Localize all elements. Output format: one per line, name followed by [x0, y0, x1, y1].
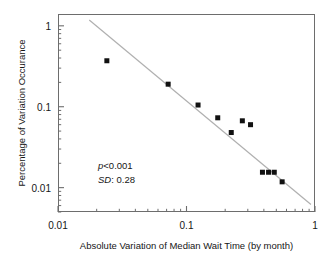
data-point [272, 170, 277, 175]
data-point [196, 103, 201, 108]
p-value-text: <0.001 [103, 160, 132, 171]
stats-annotation: p<0.001 SD: 0.28 [98, 159, 135, 187]
x-tick-label: 1 [312, 220, 318, 231]
y-axis-title: Percentage of Variation Occurance [16, 13, 27, 213]
data-point [240, 118, 245, 123]
sd-symbol: SD [98, 174, 111, 185]
data-point [104, 58, 109, 63]
data-point [280, 179, 285, 184]
data-point [260, 170, 265, 175]
x-tick-label: 0.01 [48, 220, 67, 231]
data-point [248, 122, 253, 127]
data-point [166, 82, 171, 87]
x-axis-title: Absolute Variation of Median Wait Time (… [58, 240, 315, 251]
sd-value-text: : 0.28 [111, 174, 135, 185]
sd-value-row: SD: 0.28 [98, 173, 135, 187]
x-tick-label: 0.1 [180, 220, 194, 231]
y-axis-ticks [58, 26, 64, 212]
x-axis-ticks [58, 206, 315, 212]
data-point [229, 130, 234, 135]
data-point [215, 115, 220, 120]
p-value-row: p<0.001 [98, 159, 135, 173]
data-point [266, 170, 271, 175]
chart-figure: 10.10.01 0.010.11 Percentage of Variatio… [0, 0, 335, 264]
